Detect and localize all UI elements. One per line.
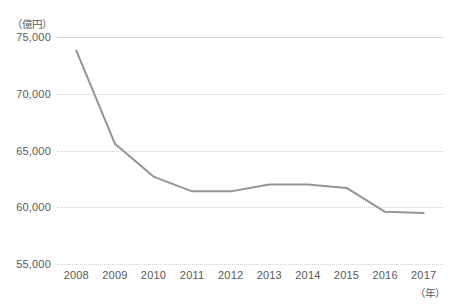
x-axis-tick-label: 2010 — [141, 269, 166, 281]
data-line — [76, 51, 423, 213]
line-series-group — [57, 37, 443, 264]
x-axis-tick-label: 2012 — [218, 269, 243, 281]
x-axis-unit-label: （年） — [415, 285, 445, 300]
chart-screenshot: （億円） （年） 55,00060,00065,00070,00075,000 … — [0, 0, 451, 307]
plot-area — [57, 37, 443, 264]
x-axis-tick-label: 2014 — [295, 269, 320, 281]
x-axis-tick-label: 2015 — [334, 269, 359, 281]
x-axis-tick-label: 2011 — [180, 269, 204, 281]
x-axis-tick-label: 2016 — [372, 269, 397, 281]
y-axis-tick-label: 75,000 — [0, 31, 51, 43]
x-axis-tick-label: 2008 — [64, 269, 89, 281]
x-axis-tick-label: 2013 — [257, 269, 282, 281]
y-axis-tick-label: 55,000 — [0, 258, 51, 270]
y-axis-tick-label: 65,000 — [0, 145, 51, 157]
gridline — [57, 264, 443, 265]
x-axis-tick-label: 2017 — [411, 269, 436, 281]
y-axis-tick-label: 60,000 — [0, 201, 51, 213]
y-axis-unit-label: （億円） — [12, 16, 52, 31]
x-axis-tick-label: 2009 — [102, 269, 127, 281]
y-axis-tick-label: 70,000 — [0, 88, 51, 100]
